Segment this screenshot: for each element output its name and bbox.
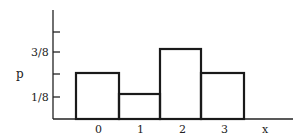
x-axis-label: x [262, 124, 268, 135]
x-tick-label-3: 3 [221, 124, 228, 135]
bar-3 [201, 73, 244, 119]
y-tick-label-1-8: 1/8 [31, 92, 49, 103]
histogram-plot [0, 0, 307, 139]
x-tick-label-0: 0 [95, 124, 102, 135]
bar-0 [76, 73, 119, 119]
y-axis-label: p [16, 69, 24, 80]
x-tick-label-2: 2 [179, 124, 186, 135]
y-tick-label-3-8: 3/8 [31, 47, 49, 58]
bar-2 [160, 49, 201, 119]
x-tick-label-1: 1 [137, 124, 144, 135]
bar-1 [119, 94, 160, 119]
